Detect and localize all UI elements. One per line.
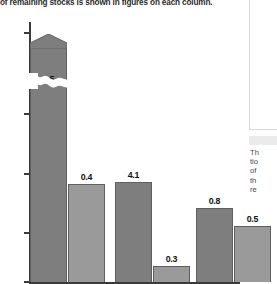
- bar-arrow-cap-icon: [30, 34, 67, 49]
- side-panel-line-4: th: [250, 176, 277, 185]
- bar-value-label: 0.8: [209, 196, 221, 206]
- side-panel-line-2: tio: [250, 157, 277, 166]
- bar-2[interactable]: 0.4: [68, 184, 105, 282]
- bar-3[interactable]: 4.1: [115, 182, 152, 282]
- bar-body: [196, 208, 233, 282]
- side-panel-line-1: Th: [250, 148, 277, 157]
- side-panel-tag: [249, 136, 277, 145]
- bar-chart: 01,0002,0003,0005,200 1.50.44.10.30.80.5: [0, 11, 240, 274]
- side-panel-line-5: re: [250, 185, 277, 194]
- bar-value-label: 0.3: [166, 254, 178, 264]
- bar-5[interactable]: 0.8: [196, 208, 233, 282]
- side-panel-box: [249, 0, 277, 130]
- chart-caption: of remaining stocks is shown in figures …: [0, 0, 236, 8]
- side-panel: Thtioofthre: [245, 0, 277, 274]
- bar-value-label: 4.1: [128, 170, 140, 180]
- bar-4[interactable]: 0.3: [153, 266, 190, 282]
- y-axis-break-wave: [23, 73, 38, 89]
- bar-body: [115, 182, 152, 282]
- side-panel-text: Thtioofthre: [250, 148, 277, 194]
- bar-value-label: 0.4: [81, 172, 93, 182]
- bar-body: [153, 266, 190, 282]
- bar-body: [68, 184, 105, 282]
- side-panel-line-3: of: [250, 166, 277, 175]
